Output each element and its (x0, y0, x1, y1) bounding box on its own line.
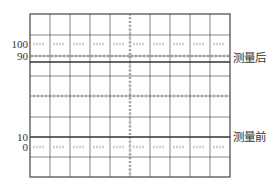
level-label: 90 (17, 50, 29, 62)
level-label: 100 (12, 38, 29, 50)
level-label: 0 (23, 141, 29, 153)
oscilloscope-graticule-diagram: 10090100测量后测量前 (0, 0, 279, 189)
trace-label-after: 测量后 (233, 51, 266, 65)
graticule-grid (30, 14, 230, 177)
trace-label-before: 测量前 (233, 130, 266, 144)
